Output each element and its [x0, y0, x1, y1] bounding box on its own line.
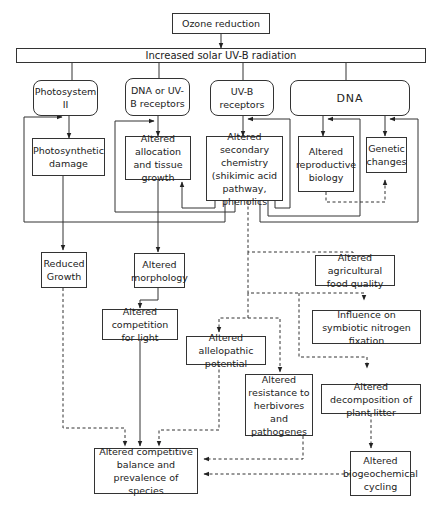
- node-photosynthetic-damage: Photosynthetic damage: [32, 138, 105, 176]
- node-dna: DNA: [290, 80, 410, 116]
- node-label: Altered agricultural food quality: [318, 251, 392, 290]
- node-label: Altered morphology: [131, 258, 188, 284]
- node-label: Altered allocation and tissue growth: [128, 132, 188, 184]
- node-resistance-herbivores: Altered resistance to herbivores and pat…: [245, 374, 313, 436]
- node-uvb-receptors: UV-B receptors: [210, 80, 274, 116]
- node-label: Altered biogeochemical cycling: [343, 454, 418, 493]
- node-dna-or-uvb-receptors: DNA or UV-B receptors: [125, 78, 190, 116]
- node-altered-secondary-chemistry: Altered secondary chemistry (shikimic ac…: [206, 136, 283, 201]
- node-decomposition-plant-litter: Altered decomposition of plant litter: [321, 384, 421, 414]
- node-label: DNA or UV-B receptors: [128, 84, 187, 110]
- node-increased-uvb: Increased solar UV-B radiation: [16, 48, 426, 63]
- node-ozone-reduction: Ozone reduction: [172, 13, 270, 34]
- node-altered-morphology: Altered morphology: [134, 253, 185, 288]
- node-agricultural-food-quality: Altered agricultural food quality: [315, 255, 395, 286]
- node-reduced-growth: Reduced Growth: [41, 252, 87, 288]
- node-symbiotic-nitrogen-fixation: Influence on symbiotic nitrogen fixation: [312, 310, 421, 344]
- node-label: Genetic changes: [367, 142, 407, 168]
- node-label: Ozone reduction: [182, 17, 260, 30]
- node-label: Altered secondary chemistry (shikimic ac…: [209, 130, 280, 208]
- node-label: UV-B receptors: [213, 85, 271, 111]
- node-competition-for-light: Altered competition for light: [102, 309, 178, 340]
- node-label: Altered allelopathic potential: [189, 331, 263, 370]
- node-label: Altered decomposition of plant litter: [324, 380, 418, 419]
- node-label: DNA: [336, 92, 363, 105]
- node-label: Increased solar UV-B radiation: [146, 49, 297, 62]
- node-label: Photosynthetic damage: [33, 144, 104, 170]
- node-label: Altered reproductive biology: [296, 145, 356, 184]
- node-genetic-changes: Genetic changes: [366, 137, 407, 173]
- node-altered-allocation: Altered allocation and tissue growth: [125, 136, 191, 180]
- node-label: Altered competitive balance and prevalen…: [97, 445, 195, 497]
- node-altered-reproductive-biology: Altered reproductive biology: [298, 136, 354, 192]
- node-competitive-balance: Altered competitive balance and prevalen…: [94, 448, 198, 494]
- node-label: Influence on symbiotic nitrogen fixation: [315, 308, 418, 347]
- node-photosystem-ii: Photosystem II: [33, 80, 98, 116]
- node-label: Altered competition for light: [105, 305, 175, 344]
- node-allelopathic-potential: Altered allelopathic potential: [186, 336, 266, 365]
- node-label: Photosystem II: [35, 85, 96, 111]
- node-label: Altered resistance to herbivores and pat…: [248, 373, 310, 438]
- node-biogeochemical-cycling: Altered biogeochemical cycling: [350, 451, 411, 496]
- node-label: Reduced Growth: [43, 257, 84, 283]
